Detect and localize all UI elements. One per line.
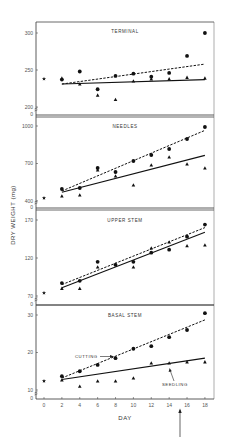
seedling-point-icon bbox=[60, 194, 64, 197]
seedling-point-icon bbox=[78, 193, 82, 196]
initial-star-icon bbox=[42, 291, 46, 295]
y-tick-label: 700 bbox=[25, 160, 34, 166]
cutting-point-icon bbox=[185, 137, 189, 141]
y-zero-label: 0 bbox=[30, 111, 33, 117]
seedling-point-icon bbox=[132, 376, 136, 379]
cutting-point-icon bbox=[96, 260, 100, 264]
seedling-point-icon bbox=[132, 79, 136, 82]
cutting-point-icon bbox=[78, 186, 82, 190]
x-axis-label: DAY bbox=[118, 415, 131, 421]
x-tick-label: 12 bbox=[148, 402, 154, 408]
y-tick-label: 300 bbox=[25, 30, 34, 36]
y-tick-label: 30 bbox=[27, 312, 33, 318]
arrow-up-icon bbox=[169, 368, 172, 372]
seedling-point-icon bbox=[167, 77, 171, 80]
seedling-point-icon bbox=[185, 244, 189, 247]
y-tick-label: 250 bbox=[25, 67, 34, 73]
cutting-point-icon bbox=[132, 260, 136, 264]
x-tick-label: 2 bbox=[60, 402, 63, 408]
cutting-point-icon bbox=[149, 153, 153, 157]
cutting-point-icon bbox=[167, 335, 171, 339]
cutting-point-icon bbox=[203, 311, 207, 315]
cutting-point-icon bbox=[60, 374, 64, 378]
y-tick-label: 70 bbox=[27, 293, 33, 299]
cutting-point-icon bbox=[167, 147, 171, 151]
initial-star-icon bbox=[42, 196, 46, 200]
cutting-point-icon bbox=[78, 369, 82, 373]
panel-terminal: TERMINAL2002503000 bbox=[25, 22, 214, 117]
y-zero-label: 0 bbox=[30, 204, 33, 210]
seedling-point-icon bbox=[149, 361, 153, 364]
x-tick-label: 6 bbox=[96, 402, 99, 408]
cutting-point-icon bbox=[60, 187, 64, 191]
x-tick-label: 4 bbox=[78, 402, 81, 408]
seedling-point-icon bbox=[114, 174, 118, 177]
cutting-point-icon bbox=[185, 328, 189, 332]
seedling-point-icon bbox=[132, 183, 136, 186]
y-zero-label: 0 bbox=[30, 395, 33, 401]
seedling-point-icon bbox=[114, 379, 118, 382]
cutting-point-icon bbox=[203, 31, 207, 35]
cutting-point-icon bbox=[149, 251, 153, 255]
x-tick-label: 10 bbox=[131, 402, 137, 408]
seedling-legend: SEEDLING bbox=[162, 368, 188, 387]
panel-upper-stem: UPPER STEM701201700 bbox=[25, 210, 214, 307]
seedling-point-icon bbox=[203, 166, 207, 169]
cutting-point-icon bbox=[185, 235, 189, 239]
cutting-point-icon bbox=[96, 363, 100, 367]
cutting-point-icon bbox=[132, 72, 136, 76]
x-tick-label: 14 bbox=[166, 402, 172, 408]
y-tick-label: 20 bbox=[27, 349, 33, 355]
cutting-point-icon bbox=[114, 356, 118, 360]
cutting-point-icon bbox=[114, 74, 118, 78]
seedling-point-icon bbox=[78, 384, 82, 387]
initial-star-icon bbox=[42, 379, 46, 383]
day-arrow-icon bbox=[178, 409, 181, 438]
cutting-point-icon bbox=[203, 223, 207, 227]
seedling-point-icon bbox=[203, 243, 207, 246]
y-zero-label: 0 bbox=[30, 301, 33, 307]
y-tick-label: 10 bbox=[27, 387, 33, 393]
cutting-legend: CUTTING bbox=[75, 354, 114, 359]
seedling-point-icon bbox=[185, 76, 189, 79]
cutting-point-icon bbox=[149, 344, 153, 348]
y-tick-label: 120 bbox=[25, 255, 34, 261]
seedling-label: SEEDLING bbox=[162, 382, 188, 387]
panel-title: BASAL STEM bbox=[108, 313, 142, 318]
seedling-point-icon bbox=[203, 360, 207, 363]
cutting-label: CUTTING bbox=[75, 354, 98, 359]
cutting-point-icon bbox=[185, 54, 189, 58]
cutting-point-icon bbox=[78, 70, 82, 74]
initial-star-icon bbox=[42, 77, 46, 81]
cutting-fit-line bbox=[62, 228, 205, 285]
seedling-point-icon bbox=[78, 287, 82, 290]
seedling-point-icon bbox=[114, 98, 118, 101]
cutting-point-icon bbox=[114, 170, 118, 174]
cutting-point-icon bbox=[203, 125, 207, 129]
y-tick-label: 200 bbox=[25, 104, 34, 110]
seedling-point-icon bbox=[185, 162, 189, 165]
seedling-point-icon bbox=[203, 76, 207, 79]
cutting-point-icon bbox=[132, 159, 136, 163]
cutting-point-icon bbox=[167, 71, 171, 75]
cutting-point-icon bbox=[167, 248, 171, 252]
panels: TERMINAL2002503000NEEDLES40070010000UPPE… bbox=[22, 22, 214, 401]
y-axis-label: DRY WEIGHT (mg) bbox=[10, 185, 16, 245]
x-tick-label: 0 bbox=[43, 402, 46, 408]
seedling-point-icon bbox=[167, 155, 171, 158]
growth-chart: TERMINAL2002503000NEEDLES40070010000UPPE… bbox=[0, 0, 227, 440]
x-tick-label: 18 bbox=[202, 402, 208, 408]
cutting-point-icon bbox=[60, 281, 64, 285]
cutting-point-icon bbox=[96, 87, 100, 91]
panel-title: NEEDLES bbox=[112, 124, 137, 129]
seedling-point-icon bbox=[96, 379, 100, 382]
cutting-point-icon bbox=[132, 347, 136, 351]
panel-needles: NEEDLES40070010000 bbox=[22, 117, 214, 210]
x-tick-label: 16 bbox=[184, 402, 190, 408]
y-tick-label: 1000 bbox=[22, 123, 33, 129]
seedling-point-icon bbox=[96, 93, 100, 96]
x-tick-label: 8 bbox=[114, 402, 117, 408]
seedling-point-icon bbox=[60, 76, 64, 79]
seedling-point-icon bbox=[132, 265, 136, 268]
seedling-point-icon bbox=[149, 246, 153, 249]
